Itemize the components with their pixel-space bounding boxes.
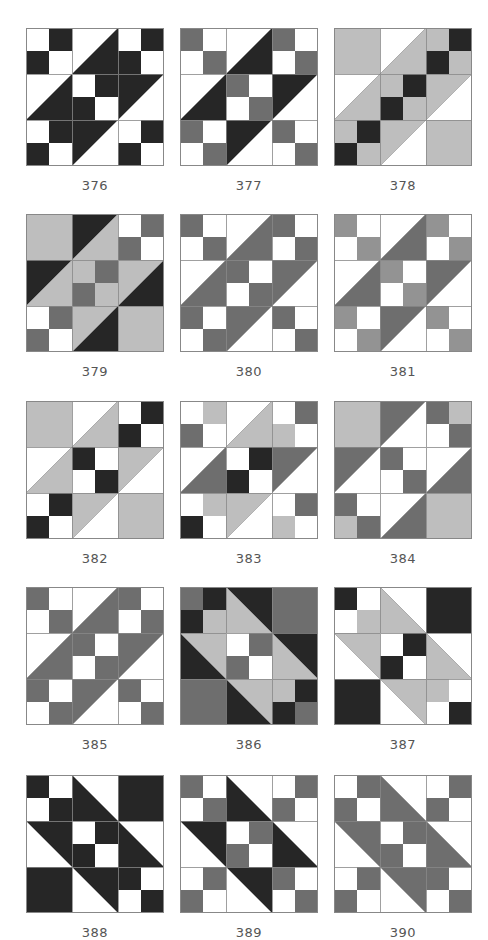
- block-number-label: 389: [180, 925, 318, 940]
- block-number-label: 385: [26, 737, 164, 752]
- block-number-label: 380: [180, 364, 318, 379]
- quilt-block: [334, 775, 472, 913]
- quilt-block: [26, 587, 164, 725]
- quilt-block: [334, 214, 472, 352]
- block-number-label: 381: [334, 364, 472, 379]
- block-number-label: 382: [26, 551, 164, 566]
- block-number-label: 383: [180, 551, 318, 566]
- quilt-block: [334, 401, 472, 539]
- block-number-label: 376: [26, 178, 164, 193]
- quilt-block: [26, 214, 164, 352]
- block-number-label: 384: [334, 551, 472, 566]
- quilt-block: [26, 28, 164, 166]
- quilt-block: [26, 401, 164, 539]
- block-number-label: 378: [334, 178, 472, 193]
- quilt-block: [334, 587, 472, 725]
- block-number-label: 379: [26, 364, 164, 379]
- quilt-block: [180, 587, 318, 725]
- quilt-block: [180, 401, 318, 539]
- quilt-block: [26, 775, 164, 913]
- quilt-block: [334, 28, 472, 166]
- block-number-label: 387: [334, 737, 472, 752]
- block-number-label: 390: [334, 925, 472, 940]
- quilt-block: [180, 775, 318, 913]
- quilt-block: [180, 214, 318, 352]
- block-number-label: 388: [26, 925, 164, 940]
- block-number-label: 386: [180, 737, 318, 752]
- quilt-block: [180, 28, 318, 166]
- block-number-label: 377: [180, 178, 318, 193]
